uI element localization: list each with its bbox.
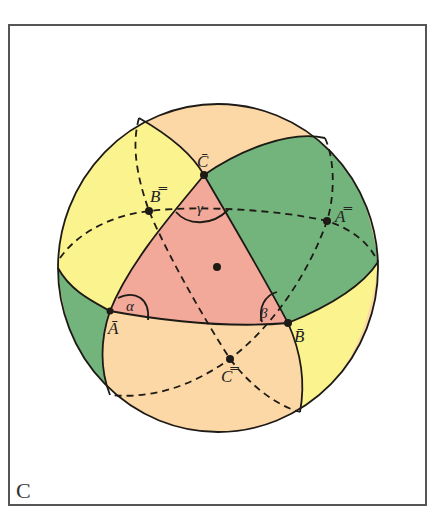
label-A-bar: Ā xyxy=(107,319,119,338)
label-beta: β xyxy=(259,305,268,321)
dot-C-bar xyxy=(200,171,208,179)
dot-A-bar xyxy=(107,308,114,315)
panel-label: C xyxy=(16,478,31,504)
label-alpha: α xyxy=(126,298,135,314)
label-B-bar: B̄ xyxy=(294,327,305,346)
label-C-bar: C̄ xyxy=(197,152,209,171)
dot-center xyxy=(213,263,221,271)
spherical-triangle-diagram: C̄ Ā B̄ B̿ A̿ C̿ α β γ xyxy=(0,0,437,513)
dot-B-bar xyxy=(284,319,292,327)
dot-B-double-bar xyxy=(145,207,153,215)
dot-A-double-bar xyxy=(323,217,331,225)
dot-C-double-bar xyxy=(226,355,234,363)
